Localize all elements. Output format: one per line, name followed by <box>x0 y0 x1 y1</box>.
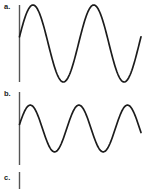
panel-c: c. <box>0 168 150 194</box>
panel-c-plot <box>0 168 150 194</box>
panel-a-plot <box>0 0 150 88</box>
panel-a: a. <box>0 0 150 88</box>
panel-a-waveform <box>20 5 142 82</box>
panel-b: b. <box>0 88 150 168</box>
panel-b-waveform <box>20 105 142 152</box>
waveform-figure: a. b. c. <box>0 0 150 194</box>
panel-b-plot <box>0 88 150 168</box>
